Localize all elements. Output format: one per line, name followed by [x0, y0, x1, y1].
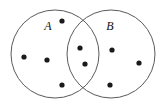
element-dot — [77, 45, 82, 50]
set-label-a: A — [43, 19, 52, 33]
element-dot — [59, 18, 64, 23]
element-dot — [21, 54, 26, 59]
set-label-group: AB — [43, 19, 114, 33]
element-dot — [59, 82, 64, 87]
element-dot — [109, 47, 114, 52]
set-circle-a — [11, 10, 99, 98]
element-dot — [136, 60, 141, 65]
element-dot — [107, 82, 112, 87]
set-label-b: B — [106, 19, 114, 33]
element-dot — [82, 61, 87, 66]
venn-diagram-canvas: AB — [0, 0, 165, 106]
set-circle-group — [11, 10, 155, 98]
element-dot — [44, 57, 49, 62]
element-dot-group — [21, 18, 141, 87]
venn-diagram: AB — [0, 0, 165, 106]
